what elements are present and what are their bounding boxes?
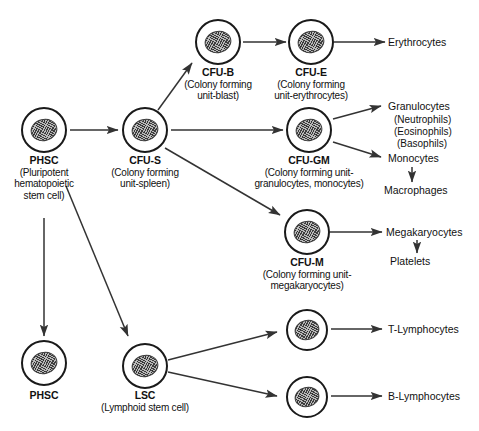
nucleus-icon xyxy=(292,384,321,409)
cell-phsc-bottom[interactable] xyxy=(21,340,67,386)
label-phsc-top: PHSC (Pluripotent hematopoietic stem cel… xyxy=(0,155,88,201)
label-lsc-sub1: (Lymphoid stem cell) xyxy=(85,402,205,414)
label-phsc-top-name: PHSC xyxy=(0,155,88,167)
label-cfu-m-sub2: megakaryocytes) xyxy=(238,280,376,292)
cell-cfu-b[interactable] xyxy=(195,19,241,65)
label-cfu-e-name: CFU-E xyxy=(249,67,373,79)
cell-lsc[interactable] xyxy=(122,343,168,389)
label-cfu-gm-name: CFU-GM xyxy=(236,155,382,167)
cell-b-lymphocyte[interactable] xyxy=(286,376,328,418)
nucleus-icon xyxy=(295,28,327,56)
label-cfu-m-sub1: (Colony forming unit- xyxy=(238,269,376,281)
cell-cfu-m[interactable] xyxy=(284,209,330,255)
label-lsc-name: LSC xyxy=(85,390,205,402)
edge-phsc-to-lsc xyxy=(66,186,128,336)
label-phsc-top-sub1: (Pluripotent xyxy=(0,167,88,179)
label-cfu-m: CFU-M (Colony forming unit- megakaryocyt… xyxy=(238,257,376,292)
label-phsc-bottom-name: PHSC xyxy=(4,390,84,402)
nucleus-icon xyxy=(28,116,60,144)
edge-lsc-to-tcell xyxy=(168,332,277,360)
nucleus-icon xyxy=(291,218,323,246)
label-cfu-gm-sub1: (Colony forming unit- xyxy=(236,167,382,179)
label-cfu-m-name: CFU-M xyxy=(238,257,376,269)
cell-cfu-e[interactable] xyxy=(288,19,334,65)
label-cfu-s-sub1: (Colony forming xyxy=(90,167,200,179)
nucleus-icon xyxy=(28,349,60,377)
hematopoiesis-diagram: PHSC (Pluripotent hematopoietic stem cel… xyxy=(0,0,479,431)
label-cfu-gm: CFU-GM (Colony forming unit- granulocyte… xyxy=(236,155,382,190)
cell-t-lymphocyte[interactable] xyxy=(286,309,328,351)
label-cfu-e-sub1: (Colony forming xyxy=(249,79,373,91)
terminal-eosinophils: (Eosinophils) xyxy=(394,126,452,138)
terminal-basophils: (Basophils) xyxy=(397,138,447,150)
terminal-granulocytes: Granulocytes xyxy=(388,100,450,112)
terminal-monocytes: Monocytes xyxy=(388,152,439,164)
nucleus-icon xyxy=(202,28,234,56)
label-phsc-bottom: PHSC xyxy=(4,390,84,402)
label-phsc-top-sub2: hematopoietic xyxy=(0,178,88,190)
terminal-platelets: Platelets xyxy=(390,255,430,267)
label-cfu-gm-sub2: granulocytes, monocytes) xyxy=(236,178,382,190)
nucleus-icon xyxy=(129,352,161,380)
label-lsc: LSC (Lymphoid stem cell) xyxy=(85,390,205,413)
label-cfu-s: CFU-S (Colony forming unit-spleen) xyxy=(90,155,200,190)
label-cfu-s-sub2: unit-spleen) xyxy=(90,178,200,190)
terminal-b-lymphocytes: B-Lymphocytes xyxy=(388,390,460,402)
terminal-neutrophils: (Neutrophils) xyxy=(394,114,451,126)
nucleus-icon xyxy=(129,116,161,144)
terminal-t-lymphocytes: T-Lymphocytes xyxy=(388,323,459,335)
cell-phsc-top[interactable] xyxy=(21,107,67,153)
label-cfu-e-sub2: unit-erythrocytes) xyxy=(249,90,373,102)
terminal-erythrocytes: Erythrocytes xyxy=(388,36,446,48)
terminal-macrophages: Macrophages xyxy=(384,184,448,196)
nucleus-icon xyxy=(293,116,325,144)
label-cfu-e: CFU-E (Colony forming unit-erythrocytes) xyxy=(249,67,373,102)
nucleus-icon xyxy=(292,317,321,342)
cell-cfu-s[interactable] xyxy=(122,107,168,153)
label-cfu-s-name: CFU-S xyxy=(90,155,200,167)
label-phsc-top-sub3: stem cell) xyxy=(0,190,88,202)
arrow-layer xyxy=(0,0,479,431)
edge-cfugm-to-granulocytes xyxy=(333,106,381,119)
terminal-megakaryocytes: Megakaryocytes xyxy=(386,226,462,238)
cell-cfu-gm[interactable] xyxy=(286,107,332,153)
